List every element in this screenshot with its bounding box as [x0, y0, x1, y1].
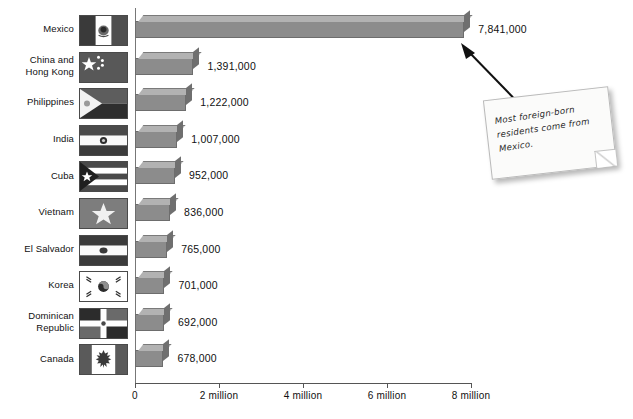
flag-canada-icon	[79, 344, 128, 375]
category-label: Vietnam	[0, 195, 74, 229]
flag-el-salvador-icon	[79, 235, 128, 266]
flag-korea-icon	[79, 271, 128, 302]
bar-value-label: 765,000	[181, 241, 220, 258]
bar-front-face	[135, 58, 193, 75]
category-label-line: Cuba	[51, 170, 74, 182]
axis-tick-label: 0	[132, 390, 138, 401]
bar	[135, 122, 184, 156]
flag-vietnam-icon	[79, 198, 128, 229]
category-label: Korea	[0, 268, 74, 302]
category-label-line: Korea	[48, 279, 74, 291]
category-label: India	[0, 122, 74, 156]
bar	[135, 305, 171, 339]
category-label-line: Mexico	[43, 23, 74, 35]
axis-tick	[219, 383, 220, 388]
category-label: El Salvador	[0, 232, 74, 266]
axis-tick	[303, 383, 304, 388]
bar-side-face	[164, 266, 170, 288]
axis-tick	[387, 383, 388, 388]
category-label-line: Republic	[28, 322, 74, 334]
bar-top-face	[138, 15, 473, 22]
category-label-line: Canada	[40, 353, 74, 365]
bar	[135, 12, 471, 46]
bar-value-label: 952,000	[189, 167, 228, 184]
category-label-line: India	[53, 133, 74, 145]
bar-front-face	[135, 314, 164, 331]
bar	[135, 341, 170, 375]
flag-philippines-icon	[79, 88, 128, 119]
chart-row: El Salvador765,000	[0, 232, 633, 266]
axis-tick-label: 8 million	[452, 390, 490, 401]
category-label-line: Dominican	[28, 310, 74, 322]
chart-row: Vietnam836,000	[0, 195, 633, 229]
category-label-line: Hong Kong	[26, 66, 74, 78]
page-curl-icon	[594, 149, 617, 168]
bar-side-face	[170, 193, 176, 215]
bar-value-label: 836,000	[184, 204, 223, 221]
axis-tick	[471, 383, 472, 388]
chart-row: Canada678,000	[0, 341, 633, 375]
category-label-line: El Salvador	[24, 243, 74, 255]
bar-side-face	[186, 83, 192, 105]
axis-tick-label: 6 million	[368, 390, 406, 401]
category-label: DominicanRepublic	[0, 305, 74, 339]
bar	[135, 195, 177, 229]
flag-india-icon	[79, 125, 128, 156]
category-label-line: Philippines	[27, 96, 74, 108]
bar-side-face	[164, 303, 170, 325]
category-label: Philippines	[0, 85, 74, 119]
bar	[135, 85, 193, 119]
bar-front-face	[135, 167, 175, 184]
category-label-line: Vietnam	[39, 206, 74, 218]
bar	[135, 232, 174, 266]
flag-mexico-icon	[79, 15, 128, 46]
category-label: China andHong Kong	[0, 49, 74, 83]
category-label-line: China and	[26, 54, 74, 66]
bar-front-face	[135, 350, 163, 367]
bar-front-face	[135, 131, 177, 148]
bar-side-face	[464, 10, 470, 32]
axis-tick	[135, 383, 136, 388]
bar-value-label: 1,222,000	[200, 94, 249, 111]
bar-value-label: 7,841,000	[478, 21, 527, 38]
flag-china-icon	[79, 52, 128, 83]
bar-side-face	[193, 47, 199, 69]
bar-value-label: 1,007,000	[191, 131, 240, 148]
category-label: Canada	[0, 341, 74, 375]
chart-row: DominicanRepublic692,000	[0, 305, 633, 339]
bar-front-face	[135, 204, 170, 221]
foreign-born-population-bar-chart: Mexico7,841,000China andHong Kong1,391,0…	[0, 0, 633, 419]
bar-side-face	[177, 120, 183, 142]
flag-dominican-republic-icon	[79, 308, 128, 339]
category-label: Cuba	[0, 158, 74, 192]
axis-tick-label: 4 million	[284, 390, 322, 401]
bar-side-face	[163, 340, 169, 362]
bar	[135, 158, 182, 192]
bar	[135, 49, 200, 83]
bar-front-face	[135, 241, 167, 258]
bar-side-face	[167, 230, 173, 252]
bar-value-label: 1,391,000	[207, 58, 256, 75]
bar-front-face	[135, 277, 164, 294]
bar	[135, 268, 171, 302]
bar-value-label: 701,000	[178, 277, 217, 294]
bar-front-face	[135, 21, 464, 38]
bar-value-label: 678,000	[177, 350, 216, 367]
flag-cuba-icon	[79, 161, 128, 192]
callout-note-text: Most foreign-born residents come from Me…	[494, 98, 605, 155]
axis-tick-label: 2 million	[200, 390, 238, 401]
category-label: Mexico	[0, 12, 74, 46]
bar-side-face	[175, 157, 181, 179]
bar-front-face	[135, 94, 186, 111]
bar-value-label: 692,000	[178, 314, 217, 331]
callout-note: Most foreign-born residents come from Me…	[483, 86, 617, 180]
chart-row: Korea701,000	[0, 268, 633, 302]
